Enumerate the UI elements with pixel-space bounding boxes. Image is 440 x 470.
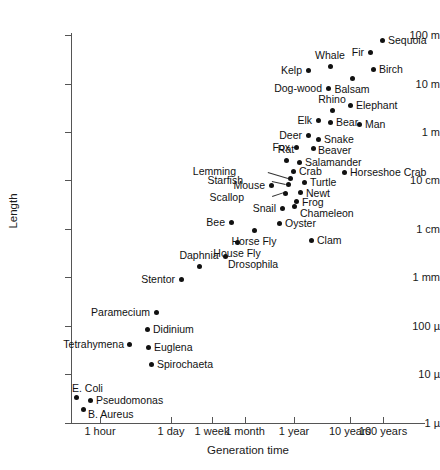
x-tick-label-1-month: 1 month <box>225 425 265 437</box>
leader-line-0 <box>268 172 288 179</box>
x-tick-label-1-year: 1 year <box>279 425 310 437</box>
data-label-spirochaeta: Spirochaeta <box>157 359 213 370</box>
data-label-daphnia: Daphnia <box>179 250 218 261</box>
x-tick-label-100-years: 100 years <box>359 425 407 437</box>
data-point-b-aureus[interactable] <box>81 407 86 412</box>
data-label-rhino: Rhino <box>318 94 345 105</box>
data-point-paramecium[interactable] <box>154 310 159 315</box>
data-label-birch: Birch <box>379 64 403 75</box>
data-label-whale: Whale <box>315 50 345 61</box>
data-point-stentor[interactable] <box>179 277 184 282</box>
data-point-lemming[interactable] <box>288 176 293 181</box>
data-point-e-coli[interactable] <box>74 395 79 400</box>
data-label-stentor: Stentor <box>141 274 175 285</box>
data-point-didinium[interactable] <box>145 327 150 332</box>
data-point-crab[interactable] <box>291 169 296 174</box>
data-point-house-fly[interactable] <box>235 240 240 245</box>
x-tick-mark-100-years <box>383 417 384 424</box>
data-point-scallop[interactable] <box>283 191 288 196</box>
data-label-elk: Elk <box>297 115 312 126</box>
data-point-horse-fly[interactable] <box>252 228 257 233</box>
y-tick-label-1-mm: 1 mm <box>382 272 440 283</box>
data-point-daphnia[interactable] <box>197 264 202 269</box>
data-point-newt[interactable] <box>298 190 303 195</box>
data-label-b-aureus: B. Aureus <box>88 409 134 420</box>
data-point-kelp[interactable] <box>306 68 311 73</box>
data-point-frog[interactable] <box>294 199 299 204</box>
data-label-clam: Clam <box>317 235 342 246</box>
data-label-horseshoe-crab: Horseshoe Crab <box>350 167 426 178</box>
y-tick-label-10: 10 µ <box>382 369 440 380</box>
x-tick-mark-1-year <box>294 417 295 424</box>
data-point-spirochaeta[interactable] <box>149 362 154 367</box>
data-point-fox[interactable] <box>294 145 299 150</box>
data-point-sequoia[interactable] <box>380 38 385 43</box>
y-tick-label-1-cm: 1 cm <box>382 224 440 235</box>
data-label-rat: Rat <box>278 144 294 155</box>
y-tick-mark-1-cm <box>65 229 72 230</box>
data-point-balsam[interactable] <box>350 76 355 81</box>
x-tick-label-1-day: 1 day <box>158 425 185 437</box>
x-axis-title: Generation time <box>71 444 425 456</box>
data-point-drosophila[interactable] <box>223 254 228 259</box>
x-tick-label-1-hour: 1 hour <box>84 425 115 437</box>
data-label-drosophila: Drosophila <box>228 259 278 270</box>
y-tick-mark-10 <box>65 374 72 375</box>
data-label-starfish: Starfish <box>207 175 243 186</box>
data-point-deer[interactable] <box>306 133 311 138</box>
data-label-fir: Fir <box>352 47 364 58</box>
data-point-euglena[interactable] <box>146 345 151 350</box>
data-label-e-coli: E. Coli <box>72 383 103 394</box>
data-label-didinium: Didinium <box>153 324 194 335</box>
data-point-starfish[interactable] <box>286 182 291 187</box>
data-point-man[interactable] <box>357 122 362 127</box>
data-label-paramecium: Paramecium <box>91 307 150 318</box>
data-label-bear: Bear <box>336 117 358 128</box>
data-point-dog-wood[interactable] <box>326 86 331 91</box>
x-axis-line <box>71 423 425 424</box>
data-label-scallop: Scallop <box>210 192 244 203</box>
y-tick-mark-1 <box>65 423 72 424</box>
data-point-snake[interactable] <box>316 137 321 142</box>
data-label-beaver: Beaver <box>318 145 351 156</box>
data-point-mouse[interactable] <box>269 183 274 188</box>
data-label-kelp: Kelp <box>281 65 302 76</box>
data-label-man: Man <box>365 119 385 130</box>
y-tick-label-10-m: 10 m <box>382 79 440 90</box>
y-tick-mark-1-m <box>65 132 72 133</box>
data-point-pseudomonas[interactable] <box>88 398 93 403</box>
data-point-bee[interactable] <box>229 220 234 225</box>
data-point-oyster[interactable] <box>277 221 282 226</box>
data-point-whale[interactable] <box>328 64 333 69</box>
data-point-fir[interactable] <box>368 50 373 55</box>
data-point-tetrahymena[interactable] <box>127 342 132 347</box>
y-tick-mark-100-m <box>65 35 72 36</box>
data-label-dog-wood: Dog-wood <box>274 83 322 94</box>
data-point-rhino[interactable] <box>330 108 335 113</box>
data-label-tetrahymena: Tetrahymena <box>63 339 124 350</box>
data-point-clam[interactable] <box>309 238 314 243</box>
data-label-deer: Deer <box>279 130 302 141</box>
data-point-elephant[interactable] <box>348 103 353 108</box>
y-tick-mark-10-m <box>65 84 72 85</box>
data-point-bear[interactable] <box>328 120 333 125</box>
x-tick-mark-1-month <box>245 417 246 424</box>
leader-line-1 <box>272 181 286 185</box>
y-tick-mark-1-mm <box>65 277 72 278</box>
data-point-elk[interactable] <box>316 118 321 123</box>
data-point-birch[interactable] <box>371 67 376 72</box>
data-point-horseshoe-crab[interactable] <box>342 170 347 175</box>
data-label-snail: Snail <box>253 203 276 214</box>
x-tick-mark-1-week <box>212 417 213 424</box>
data-point-rat[interactable] <box>284 158 289 163</box>
y-tick-label-100: 100 µ <box>382 321 440 332</box>
data-point-beaver[interactable] <box>311 146 316 151</box>
y-tick-label-1-m: 1 m <box>382 127 440 138</box>
data-label-bee: Bee <box>206 217 225 228</box>
scatter-plot: Length Generation time 100 m10 m1 m10 cm… <box>0 0 440 470</box>
y-tick-mark-10-cm <box>65 180 72 181</box>
data-point-snail[interactable] <box>280 206 285 211</box>
data-point-chameleon[interactable] <box>292 204 297 209</box>
data-label-sequoia: Sequoia <box>388 35 427 46</box>
data-point-turtle[interactable] <box>302 180 307 185</box>
